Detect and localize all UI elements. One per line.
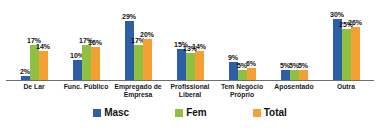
legend-swatch-icon	[175, 109, 183, 117]
bar-group-tem-negocio-proprio: 9%5%6%	[216, 62, 268, 80]
category-label-tem-negocio-proprio: Tem Negócio Próprio	[216, 83, 268, 99]
bar	[195, 51, 204, 80]
bar-group-profissional-liberal: 15%13%14%	[164, 49, 216, 80]
bar	[238, 70, 247, 80]
legend-swatch-icon	[93, 109, 101, 117]
data-label: 6%	[246, 60, 256, 67]
bar	[39, 51, 48, 80]
data-label: 9%	[228, 54, 238, 61]
category-label-outra: Outra	[320, 83, 372, 99]
bar-fem-empregado-de-empresa: 17%	[134, 45, 143, 80]
bar-total-profissional-liberal: 14%	[195, 51, 204, 80]
legend-item-masc: Masc	[93, 108, 129, 118]
bar-total-func-publico: 16%	[91, 47, 100, 80]
data-label: 29%	[122, 13, 136, 20]
bar	[186, 53, 195, 80]
bar	[143, 39, 152, 80]
category-label-aposentado: Aposentado	[268, 83, 320, 99]
bar-masc-func-publico: 10%	[73, 60, 82, 81]
legend-item-fem: Fem	[175, 108, 207, 118]
category-label-de-lar: De Lar	[8, 83, 60, 99]
bar-fem-tem-negocio-proprio: 5%	[238, 70, 247, 80]
chart-legend: MascFemTotal	[6, 108, 374, 118]
data-label: 30%	[330, 11, 344, 18]
bar	[21, 76, 30, 80]
bar-fem-de-lar: 17%	[30, 45, 39, 80]
data-label: 5%	[298, 62, 308, 69]
bar-group-empregado-de-empresa: 29%17%20%	[112, 21, 164, 80]
plot-area: 2%17%14%10%17%16%29%17%20%15%13%14%9%5%6…	[6, 4, 374, 81]
data-label: 16%	[88, 39, 102, 46]
bar	[91, 47, 100, 80]
bar	[73, 60, 82, 81]
bar	[30, 45, 39, 80]
legend-label: Masc	[104, 108, 129, 118]
bar-total-tem-negocio-proprio: 6%	[247, 68, 256, 80]
bar	[281, 70, 290, 80]
bar-fem-profissional-liberal: 13%	[186, 53, 195, 80]
bar	[134, 45, 143, 80]
category-label-profissional-liberal: Profissional Liberal	[164, 83, 216, 99]
bar-group-func-publico: 10%17%16%	[60, 45, 112, 80]
bar-chart: 2%17%14%10%17%16%29%17%20%15%13%14%9%5%6…	[6, 4, 374, 129]
data-label: 20%	[140, 31, 154, 38]
bar	[299, 70, 308, 80]
bar	[351, 27, 360, 80]
category-axis: De LarFunc. PúblicoEmpregado de EmpresaP…	[6, 83, 374, 99]
bar-masc-empregado-de-empresa: 29%	[125, 21, 134, 80]
bar	[125, 21, 134, 80]
data-label: 26%	[348, 19, 362, 26]
data-label: 14%	[36, 43, 50, 50]
bar-fem-func-publico: 17%	[82, 45, 91, 80]
legend-label: Fem	[186, 108, 207, 118]
screenshot-canvas: 2%17%14%10%17%16%29%17%20%15%13%14%9%5%6…	[0, 0, 380, 133]
bar-group-outra: 30%25%26%	[320, 19, 372, 81]
bar-total-de-lar: 14%	[39, 51, 48, 80]
bar-masc-profissional-liberal: 15%	[177, 49, 186, 80]
bar-masc-de-lar: 2%	[21, 76, 30, 80]
bar-group-de-lar: 2%17%14%	[8, 45, 60, 80]
bar	[247, 68, 256, 80]
bar-fem-aposentado: 5%	[290, 70, 299, 80]
bar-total-aposentado: 5%	[299, 70, 308, 80]
category-label-empregado-de-empresa: Empregado de Empresa	[112, 83, 164, 99]
category-label-func-publico: Func. Público	[60, 83, 112, 99]
legend-item-total: Total	[253, 108, 287, 118]
bar-total-empregado-de-empresa: 20%	[143, 39, 152, 80]
bar	[290, 70, 299, 80]
legend-label: Total	[264, 108, 287, 118]
bar	[82, 45, 91, 80]
bar-total-outra: 26%	[351, 27, 360, 80]
bar	[177, 49, 186, 80]
bar	[342, 29, 351, 80]
bar-masc-aposentado: 5%	[281, 70, 290, 80]
bar-group-aposentado: 5%5%5%	[268, 70, 320, 80]
data-label: 14%	[192, 43, 206, 50]
legend-swatch-icon	[253, 109, 261, 117]
bar-fem-outra: 25%	[342, 29, 351, 80]
